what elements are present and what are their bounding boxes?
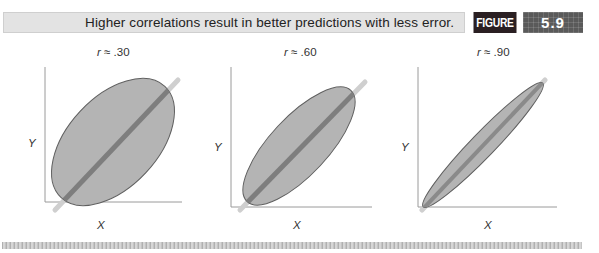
panel-title: r ≈ .90 [477,46,510,58]
y-axis-label: Y [28,137,37,149]
y-axis-label: Y [214,141,223,153]
x-axis-label: X [483,219,493,231]
y-axis-label: Y [401,141,410,153]
panel-title: r ≈ .60 [284,46,317,58]
scatter-panel-r30: r ≈ .30 Y X [28,46,198,231]
decorative-footer-bar [2,242,582,249]
panel-title: r ≈ .30 [97,46,130,58]
scatter-panel-r90: r ≈ .90 Y X [401,46,557,231]
regression-line-inside [240,82,365,210]
x-axis-label: X [96,219,106,231]
regression-line-inside [422,80,545,210]
scatter-panel-r60: r ≈ .60 Y X [214,46,372,231]
x-axis-label: X [292,219,302,231]
